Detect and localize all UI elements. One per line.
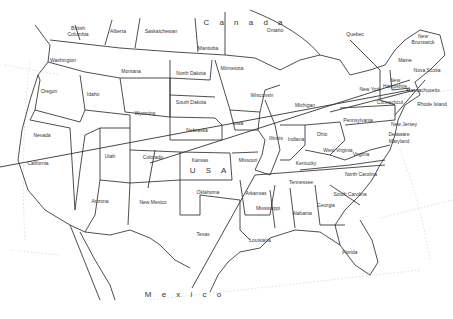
region-label-alabama: Alabama bbox=[292, 210, 312, 216]
region-label-idaho: Idaho bbox=[87, 91, 100, 97]
region-label-colorado: Colorado bbox=[143, 154, 163, 160]
region-label-alberta: Alberta bbox=[110, 28, 126, 34]
region-label-texas: Texas bbox=[196, 231, 209, 237]
region-label-maine: Maine bbox=[398, 57, 412, 63]
map-linework bbox=[0, 0, 453, 319]
region-label-quebec: Quebec bbox=[346, 31, 364, 37]
region-label-virginia: Virginia bbox=[353, 151, 370, 157]
region-label-saskatchewan: Saskatchewan bbox=[145, 28, 178, 34]
region-label-new-jersey: New Jersey bbox=[387, 121, 421, 127]
region-label-georgia: Georgia bbox=[317, 202, 335, 208]
region-label-oregon: Oregon bbox=[41, 88, 58, 94]
region-label-kentucky: Kentucky bbox=[296, 160, 317, 166]
region-label-manitoba: Manitoba bbox=[198, 45, 219, 51]
region-label-kansas: Kansas bbox=[192, 157, 209, 163]
region-label-illinois: Illinois bbox=[269, 135, 283, 141]
region-label-arizona: Arizona bbox=[92, 198, 109, 204]
country-label-usa: U S A bbox=[190, 168, 230, 174]
region-label-delaware: Delaware bbox=[388, 131, 409, 137]
region-label-new-brunswick: New Brunswick bbox=[406, 33, 440, 45]
region-label-nova-scotia: Nova Scotia bbox=[410, 67, 444, 73]
region-label-west-virginia: West Virginia bbox=[321, 147, 355, 153]
region-label-nebraska: Nebraska bbox=[186, 127, 207, 133]
region-label-indiana: Indiana bbox=[288, 136, 304, 142]
region-label-mississippi: Mississippi bbox=[256, 205, 280, 211]
region-label-tennessee: Tennessee bbox=[289, 179, 313, 185]
region-label-british-columbia: British Columbia bbox=[61, 25, 95, 37]
region-label-utah: Utah bbox=[105, 153, 116, 159]
region-label-pennsylvania: Pennsylvania bbox=[343, 117, 373, 123]
country-label-mexico: M e x i c o bbox=[145, 292, 225, 298]
region-label-ohio: Ohio bbox=[317, 131, 328, 137]
region-label-connecticut: Connecticut bbox=[377, 99, 403, 105]
region-label-oklahoma: Oklahoma bbox=[197, 189, 220, 195]
region-label-wisconsin: Wisconsin bbox=[251, 92, 274, 98]
region-label-north-carolina: North Carolina bbox=[344, 171, 378, 177]
region-label-south-dakota: South Dakota bbox=[174, 99, 208, 105]
region-label-louisiana: Louisiana bbox=[249, 237, 270, 243]
region-label-south-carolina: South Carolina bbox=[333, 191, 367, 197]
route-lines bbox=[0, 80, 425, 288]
region-label-massachusetts: Massachusetts bbox=[406, 87, 439, 93]
region-label-washington: Washington bbox=[50, 57, 76, 63]
us-outline-map: C a n a d a U S A M e x i c o British Co… bbox=[0, 0, 453, 319]
region-label-minnesota: Minnesota bbox=[220, 65, 243, 71]
region-label-wyoming: Wyoming bbox=[135, 110, 156, 116]
region-label-new-mexico: New Mexico bbox=[136, 199, 170, 205]
region-label-iowa: Iowa bbox=[233, 120, 244, 126]
region-label-rhode-island: Rhode Island bbox=[415, 101, 449, 107]
region-label-missouri: Missouri bbox=[239, 157, 258, 163]
region-label-arkansas: Arkansas bbox=[246, 190, 267, 196]
region-label-ontario: Ontario bbox=[267, 27, 283, 33]
region-label-michigan: Michigan bbox=[295, 102, 315, 108]
region-label-california: California bbox=[27, 160, 48, 166]
region-label-maryland: Maryland bbox=[389, 138, 410, 144]
region-label-florida: Florida bbox=[342, 249, 357, 255]
region-label-montana: Montana bbox=[121, 68, 140, 74]
country-label-canada: C a n a d a bbox=[203, 20, 286, 26]
region-label-nevada: Nevada bbox=[33, 132, 50, 138]
region-label-north-dakota: North Dakota bbox=[174, 70, 208, 76]
